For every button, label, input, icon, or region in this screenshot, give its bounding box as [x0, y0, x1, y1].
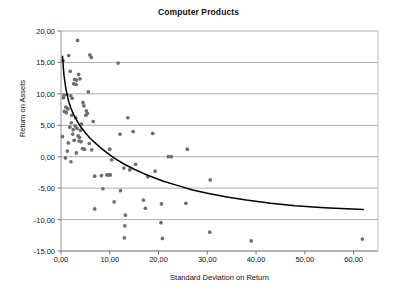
- data-point: [75, 151, 79, 155]
- data-point: [67, 54, 71, 58]
- data-point: [112, 200, 116, 204]
- data-point: [208, 178, 212, 182]
- y-axis-tickmarks: [58, 31, 62, 251]
- x-tick-label: 0,00: [38, 255, 84, 264]
- data-point: [91, 120, 95, 124]
- data-point: [110, 158, 114, 162]
- data-point: [90, 148, 94, 152]
- data-point: [93, 207, 97, 211]
- data-point: [75, 127, 79, 131]
- data-point: [70, 96, 74, 100]
- data-point: [361, 237, 365, 241]
- data-point: [134, 162, 138, 166]
- data-point: [108, 173, 112, 177]
- x-axis-tickmarks: [61, 251, 354, 255]
- data-point: [75, 78, 79, 82]
- data-point: [87, 142, 91, 146]
- y-tick-label: -10,00: [9, 215, 55, 224]
- scatter-plot-canvas: [0, 0, 397, 293]
- data-points: [61, 39, 365, 243]
- y-tick-label: 20,00: [9, 27, 55, 36]
- x-tick-label: 50,00: [282, 255, 328, 264]
- data-point: [66, 141, 70, 145]
- data-point: [82, 104, 86, 108]
- chart-figure: Computer Products Return on Assets Stand…: [0, 0, 397, 293]
- data-point: [71, 132, 75, 136]
- data-point: [78, 77, 82, 81]
- data-point: [86, 90, 90, 94]
- data-point: [74, 83, 78, 87]
- x-tick-label: 20,00: [136, 255, 182, 264]
- y-tick-label: 0,00: [9, 152, 55, 161]
- data-point: [118, 132, 122, 136]
- data-point: [122, 166, 126, 170]
- trend-curve: [62, 56, 363, 209]
- y-tick-label: 5,00: [9, 121, 55, 130]
- data-point: [142, 198, 146, 202]
- data-point: [160, 202, 164, 206]
- data-point: [66, 107, 70, 111]
- data-point: [151, 132, 155, 136]
- data-point: [72, 139, 76, 143]
- data-point: [84, 113, 88, 117]
- data-point: [153, 169, 157, 173]
- data-point: [119, 189, 123, 193]
- x-tick-label: 10,00: [87, 255, 133, 264]
- data-point: [79, 140, 83, 144]
- x-tick-label: 30,00: [184, 255, 230, 264]
- data-point: [61, 135, 65, 139]
- data-point: [83, 147, 87, 151]
- data-point: [184, 201, 188, 205]
- data-point: [65, 111, 69, 115]
- data-point: [71, 128, 75, 132]
- data-point: [208, 230, 212, 234]
- data-point: [123, 224, 127, 228]
- data-point: [131, 130, 135, 134]
- data-point: [81, 101, 85, 105]
- data-point: [69, 121, 73, 125]
- data-point: [126, 116, 130, 120]
- x-tick-label: 40,00: [233, 255, 279, 264]
- data-point: [108, 147, 112, 151]
- y-tick-label: 15,00: [9, 58, 55, 67]
- data-point: [69, 160, 73, 164]
- data-point: [159, 221, 163, 225]
- data-point: [77, 73, 81, 77]
- data-point: [78, 135, 82, 139]
- x-tick-label: 60,00: [331, 255, 377, 264]
- data-point: [100, 174, 104, 178]
- data-point: [128, 168, 132, 172]
- data-point: [161, 237, 165, 241]
- data-point: [65, 149, 69, 153]
- plot-frame: [61, 31, 378, 251]
- data-point: [62, 96, 66, 100]
- y-tick-label: 10,00: [9, 89, 55, 98]
- data-point: [64, 156, 68, 160]
- data-point: [116, 61, 120, 65]
- data-point: [124, 213, 128, 217]
- data-point: [101, 187, 105, 191]
- data-point: [76, 39, 80, 43]
- gridlines: [61, 31, 378, 251]
- data-point: [93, 174, 97, 178]
- data-point: [89, 56, 93, 60]
- data-point: [68, 69, 72, 73]
- trend-curve-path: [62, 56, 363, 209]
- data-point: [68, 125, 72, 129]
- data-point: [169, 155, 173, 159]
- data-point: [123, 236, 127, 240]
- y-tick-label: -5,00: [9, 184, 55, 193]
- data-point: [249, 239, 253, 243]
- data-point: [144, 206, 148, 210]
- data-point: [185, 147, 189, 151]
